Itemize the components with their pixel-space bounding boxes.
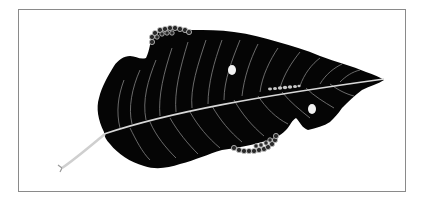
leaf-hole-1 xyxy=(228,65,236,75)
stem-fork xyxy=(58,165,62,172)
leaf-stem xyxy=(62,134,105,168)
leaf-illustration xyxy=(0,0,425,207)
leaf-hole-2 xyxy=(308,104,316,114)
